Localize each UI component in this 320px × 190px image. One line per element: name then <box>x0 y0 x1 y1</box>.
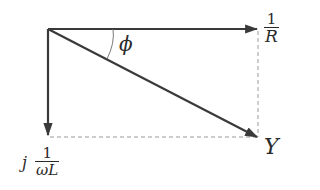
angle-label: ϕ <box>119 32 133 56</box>
conductance-denominator: R <box>264 27 279 44</box>
angle-arc <box>107 29 113 59</box>
susceptance-numerator: 1 <box>35 146 59 161</box>
susceptance-label: j 1 ωL <box>22 146 59 178</box>
conductance-label: 1 R <box>264 12 279 44</box>
susceptance-denominator: ωL <box>35 161 59 178</box>
admittance-vector <box>48 29 257 137</box>
admittance-label: Y <box>264 134 279 159</box>
imaginary-unit: j <box>22 153 27 172</box>
conductance-numerator: 1 <box>264 12 279 27</box>
